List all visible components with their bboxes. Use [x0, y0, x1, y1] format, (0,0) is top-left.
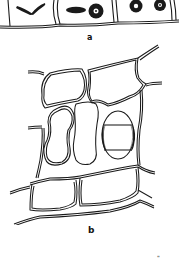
page-mark: ": [157, 254, 160, 262]
panel-b-label: b: [88, 226, 94, 234]
botanical-figure: a: [0, 0, 179, 265]
panel-b-drawing: [0, 0, 179, 225]
